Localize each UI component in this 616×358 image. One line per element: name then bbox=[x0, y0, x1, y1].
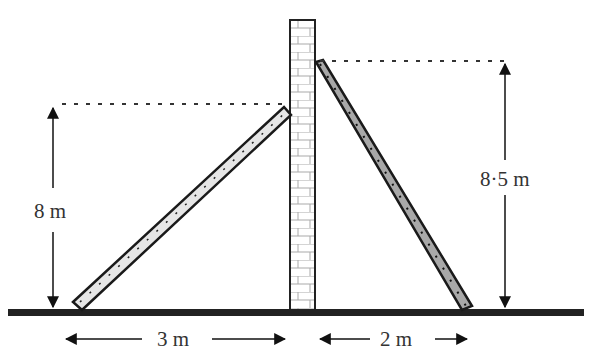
ladder-diagram: 8 m 8·5 m 3 m 2 m bbox=[0, 0, 616, 358]
right-height-label: 8·5 m bbox=[480, 167, 530, 191]
left-height-label: 8 m bbox=[34, 199, 66, 223]
left-ladder bbox=[73, 107, 291, 310]
left-base-label: 3 m bbox=[157, 327, 189, 351]
brick-wall bbox=[290, 20, 315, 310]
right-base-label: 2 m bbox=[380, 327, 412, 351]
right-ladder bbox=[316, 60, 472, 310]
